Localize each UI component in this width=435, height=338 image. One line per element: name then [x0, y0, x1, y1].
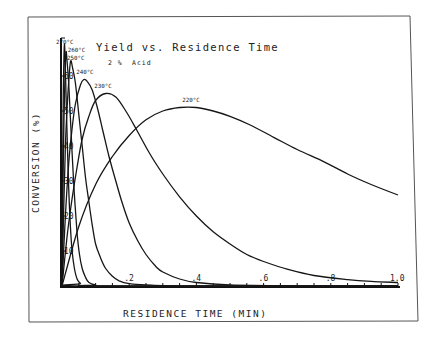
x-tick-label: .6 [259, 274, 269, 283]
y-axis-label: CONVERSION (%) [30, 112, 41, 213]
chart-subtitle-acid: Acid [132, 59, 152, 67]
chart-subtitle-percent: 2 % [108, 59, 123, 67]
curve-label: 230°C [94, 83, 112, 89]
curve-220c [62, 107, 398, 286]
curve-230c [62, 93, 398, 286]
curve-label: 250°C [67, 55, 85, 61]
figure-frame [28, 16, 418, 322]
y-tick-label: 50 [64, 107, 74, 116]
curve-label: 240°C [76, 69, 94, 75]
x-axis-label: RESIDENCE TIME (MIN) [123, 308, 267, 319]
curve-label: 260°C [68, 47, 86, 53]
curve-label: 270°C [56, 39, 74, 45]
curve-240c [62, 79, 398, 286]
chart-figure: .2.4.6.81.0 102030405060 220°C230°C240°C… [0, 0, 435, 338]
x-tick-label: .2 [124, 274, 134, 283]
curves-group [61, 44, 398, 286]
chart-title: Yield vs. Residence Time [96, 41, 279, 53]
curve-label: 220°C [182, 97, 200, 103]
